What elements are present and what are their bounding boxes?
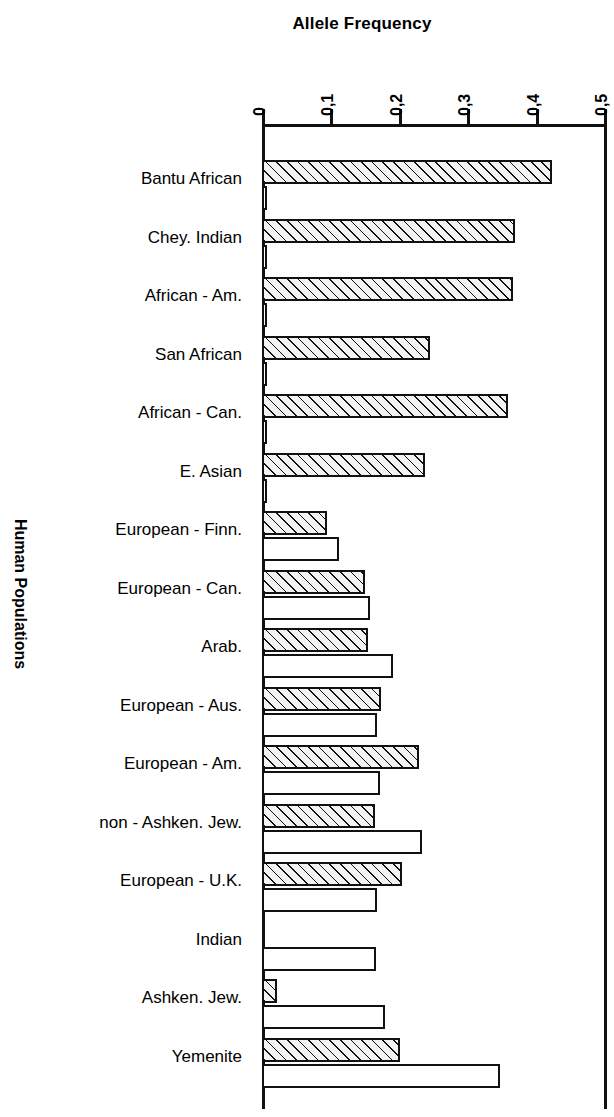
bar-open xyxy=(262,947,376,971)
category-label: Ashken. Jew. xyxy=(0,988,242,1008)
bar-row: European - Aus. xyxy=(262,687,604,746)
category-label: African - Can. xyxy=(0,403,242,423)
bar-row: Arab. xyxy=(262,628,604,687)
category-label: Bantu African xyxy=(0,169,242,189)
bar-hatched xyxy=(262,336,430,360)
bar-row: European - Finn. xyxy=(262,511,604,570)
bar-row: European - Can. xyxy=(262,570,604,629)
bar-open xyxy=(262,303,267,327)
bar-row: African - Can. xyxy=(262,394,604,453)
bar-hatched xyxy=(262,862,402,886)
bar-row: Indian xyxy=(262,921,604,980)
bar-open xyxy=(262,596,370,620)
bar-open xyxy=(262,654,393,678)
bar-row: African - Am. xyxy=(262,277,604,336)
bar-hatched xyxy=(262,687,381,711)
bar-hatched xyxy=(262,804,375,828)
bar-row: non - Ashken. Jew. xyxy=(262,804,604,863)
category-label: E. Asian xyxy=(0,462,242,482)
category-label: San African xyxy=(0,345,242,365)
x-tick-label: 0,2 xyxy=(388,94,406,116)
bar-hatched xyxy=(262,160,552,184)
bar-hatched xyxy=(262,1038,400,1062)
x-tick-label: 0,5 xyxy=(593,94,611,116)
bar-open xyxy=(262,245,267,269)
bar-open xyxy=(262,479,267,503)
category-label: European - Can. xyxy=(0,579,242,599)
bar-open xyxy=(262,1064,500,1088)
bar-hatched xyxy=(262,219,515,243)
bar-open xyxy=(262,1005,385,1029)
bar-open xyxy=(262,362,267,386)
category-label: Yemenite xyxy=(0,1047,242,1067)
category-label: Arab. xyxy=(0,637,242,657)
bar-open xyxy=(262,888,377,912)
bar-open xyxy=(262,830,422,854)
category-label: Indian xyxy=(0,930,242,950)
bar-hatched xyxy=(262,979,277,1003)
x-tick-label: 0 xyxy=(251,107,269,116)
bar-row: European - Am. xyxy=(262,745,604,804)
bar-open xyxy=(262,186,267,210)
bar-hatched xyxy=(262,745,419,769)
y-axis-line-right xyxy=(604,124,607,1109)
category-label: European - U.K. xyxy=(0,871,242,891)
bar-open xyxy=(262,537,339,561)
x-tick-label: 0,3 xyxy=(456,94,474,116)
bar-row: Yemenite xyxy=(262,1038,604,1097)
bar-row: Chey. Indian xyxy=(262,219,604,278)
bar-row: European - U.K. xyxy=(262,862,604,921)
bar-row: Ashken. Jew. xyxy=(262,979,604,1038)
bar-row: Bantu African xyxy=(262,160,604,219)
category-label: European - Am. xyxy=(0,754,242,774)
bar-hatched xyxy=(262,277,513,301)
bar-open xyxy=(262,420,267,444)
category-label: European - Finn. xyxy=(0,520,242,540)
bar-open xyxy=(262,771,380,795)
bar-hatched xyxy=(262,570,365,594)
bar-row: E. Asian xyxy=(262,453,604,512)
bar-hatched xyxy=(262,511,327,535)
x-tick-label: 0,4 xyxy=(525,94,543,116)
bar-hatched xyxy=(262,394,508,418)
category-label: African - Am. xyxy=(0,286,242,306)
chart-title: Allele Frequency xyxy=(0,14,614,34)
bar-hatched xyxy=(262,628,368,652)
category-label: European - Aus. xyxy=(0,696,242,716)
x-tick-label: 0,1 xyxy=(319,94,337,116)
plot-area: 00,10,20,30,40,5 Bantu AfricanChey. Indi… xyxy=(262,124,604,1109)
bar-row: San African xyxy=(262,336,604,395)
category-label: non - Ashken. Jew. xyxy=(0,813,242,833)
category-label: Chey. Indian xyxy=(0,228,242,248)
bar-open xyxy=(262,713,377,737)
x-axis-line xyxy=(262,124,604,127)
bar-hatched xyxy=(262,453,425,477)
